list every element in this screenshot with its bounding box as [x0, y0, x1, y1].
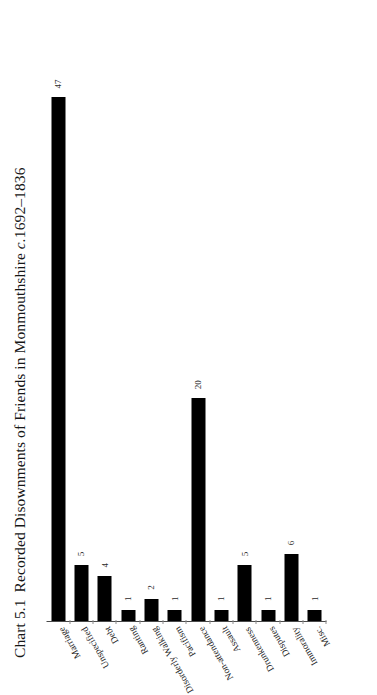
bar-row: 6 — [279, 18, 302, 621]
bar-value-label: 1 — [123, 596, 132, 601]
bar-value-label: 6 — [286, 541, 295, 546]
axis-tick — [255, 621, 256, 625]
category-label-assault: Assault — [217, 620, 242, 655]
category-label-disorderly-walking: Disorderly Walking — [147, 620, 196, 695]
axis-tick — [69, 621, 70, 625]
category-label-immorality: Immorality — [287, 620, 320, 667]
bar-row: 5 — [233, 18, 256, 621]
axis-tick — [302, 621, 303, 625]
bar-row: 5 — [69, 18, 92, 621]
bar-pacifism — [167, 610, 181, 621]
chart-title: Chart 5.1Recorded Disownments of Friends… — [10, 18, 28, 658]
bar-row: 1 — [256, 18, 279, 621]
axis-tick — [185, 621, 186, 625]
bar-series: 47541212015161 — [46, 18, 326, 621]
bar-disorderly-walking — [144, 599, 158, 621]
chart-title-circa: c. — [10, 238, 27, 249]
category-label-disputes: Disputes — [264, 620, 292, 659]
axis-tick — [92, 621, 93, 625]
bar-row: 2 — [139, 18, 162, 621]
bar-immorality — [284, 554, 298, 621]
bar-row: 4 — [93, 18, 116, 621]
bar-non-attendance — [191, 398, 205, 621]
bar-unspecified — [74, 565, 88, 621]
bar-row: 47 — [46, 18, 69, 621]
category-label-pacifism: Pacifism — [170, 620, 198, 659]
bar-row: 1 — [209, 18, 232, 621]
category-label-non-attendance: Non-attendance — [194, 620, 235, 682]
axis-tick — [279, 621, 280, 625]
axis-tick — [232, 621, 233, 625]
bar-row: 1 — [163, 18, 186, 621]
bar-value-label: 47 — [53, 79, 62, 88]
category-label-drunkenness: Drunkenness — [240, 620, 276, 673]
axis-tick — [325, 621, 326, 625]
bar-row: 1 — [303, 18, 326, 621]
bar-value-label: 5 — [240, 552, 249, 557]
bar-value-label: 1 — [310, 596, 319, 601]
category-label-misc: Misc. — [310, 620, 332, 648]
bar-value-label: 1 — [216, 596, 225, 601]
chart-title-number: Chart 5.1 — [10, 599, 27, 658]
bar-drunkenness — [237, 565, 251, 621]
axis-tick — [162, 621, 163, 625]
bar-value-label: 2 — [146, 585, 155, 590]
bar-value-label: 4 — [100, 563, 109, 568]
bar-value-label: 5 — [76, 552, 85, 557]
bar-value-label: 1 — [263, 596, 272, 601]
bar-misc — [307, 610, 321, 621]
axis-tick — [115, 621, 116, 625]
category-label-debt: Debt — [100, 620, 120, 646]
bar-row: 1 — [116, 18, 139, 621]
bar-value-label: 20 — [193, 380, 202, 389]
category-label-ranting: Ranting — [124, 620, 150, 656]
bar-row: 20 — [186, 18, 209, 621]
plot-area: 47541212015161 — [46, 18, 326, 622]
chart-title-text: Recorded Disownments of Friends in Monmo… — [10, 249, 27, 592]
chart-title-daterange: 1692–1836 — [10, 168, 27, 239]
bar-disputes — [261, 610, 275, 621]
category-label-unspecified: Unspecified — [77, 620, 111, 670]
bar-debt — [97, 576, 111, 621]
bar-ranting — [121, 610, 135, 621]
bar-assault — [214, 610, 228, 621]
axis-tick — [139, 621, 140, 625]
bar-value-label: 1 — [170, 596, 179, 601]
bar-marriage — [51, 97, 65, 621]
category-label-marriage: Marriage — [54, 620, 83, 660]
axis-tick — [209, 621, 210, 625]
